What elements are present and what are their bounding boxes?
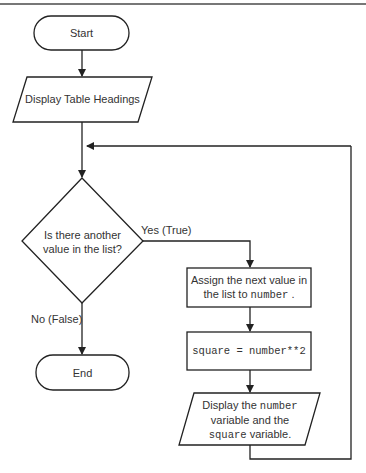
yes-true-label: Yes (True): [141, 224, 192, 236]
display-vars-label: Display the number variable and the squa…: [180, 398, 320, 442]
display-vars-code-number: number: [260, 400, 298, 412]
end-label: End: [36, 366, 129, 380]
arrow-yes-branch: [143, 241, 250, 267]
decision-label: Is there another value in the list?: [22, 228, 143, 256]
assign-line-1: Assign the next value in: [187, 273, 311, 287]
assign-line-2-suffix: .: [288, 288, 294, 300]
assign-line-2-prefix: the list to: [203, 288, 250, 300]
square-code-label: square = number**2: [187, 344, 311, 358]
display-headings-label: Display Table Headings: [13, 92, 152, 106]
assign-code-number: number: [251, 289, 289, 301]
display-vars-line-1-prefix: Display the: [202, 399, 259, 411]
no-false-label: No (False): [31, 313, 82, 325]
display-vars-line-3: square variable.: [180, 427, 320, 442]
display-vars-line-1: Display the number: [180, 398, 320, 413]
display-vars-code-square: square: [209, 429, 247, 441]
decision-line-2: value in the list?: [22, 242, 143, 256]
display-vars-line-2: variable and the: [180, 413, 320, 427]
assign-label: Assign the next value in the list to num…: [187, 273, 311, 302]
start-label: Start: [34, 26, 129, 40]
display-vars-line-3-suffix: variable.: [247, 428, 292, 440]
assign-line-2: the list to number .: [187, 287, 311, 302]
decision-line-1: Is there another: [22, 228, 143, 242]
